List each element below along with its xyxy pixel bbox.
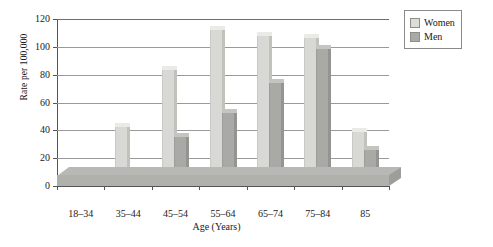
men-swatch-icon — [410, 32, 420, 42]
legend-label-men: Men — [424, 30, 442, 43]
bar-women-6574 — [257, 32, 268, 186]
bar-top-face — [115, 123, 130, 127]
y-tick-mark — [53, 103, 57, 104]
legend-item-men: Men — [410, 30, 455, 43]
legend-item-women: Women — [410, 16, 455, 29]
y-tick-mark — [53, 19, 57, 20]
y-tick-label: 20 — [24, 153, 50, 163]
x-tick-label: 18–34 — [56, 208, 106, 219]
bar-top-face — [304, 34, 319, 38]
x-tick-label: 75–84 — [293, 208, 343, 219]
y-tick-label: 120 — [24, 14, 50, 24]
x-axis-title: Age (Years) — [0, 221, 463, 232]
bar-front-face — [304, 34, 316, 186]
bar-front-face — [257, 32, 269, 186]
legend-label-women: Women — [424, 16, 455, 29]
chart-floor-3d — [57, 167, 401, 187]
bar-men-7584 — [316, 45, 327, 186]
x-tick-label: 85 — [340, 208, 390, 219]
women-swatch-icon — [410, 18, 420, 28]
y-tick-label: 100 — [24, 42, 50, 52]
bar-top-face — [364, 146, 379, 150]
bar-top-face — [174, 133, 189, 137]
x-tick-label: 55–64 — [198, 208, 248, 219]
chart-legend: Women Men — [404, 10, 462, 49]
y-tick-mark — [53, 158, 57, 159]
bar-women-5564 — [210, 26, 221, 186]
bar-front-face — [316, 45, 328, 186]
x-tick-label: 35–44 — [103, 208, 153, 219]
bar-top-face — [162, 66, 177, 70]
bar-chart: Rate per 100,000 020406080100120 18–3435… — [0, 0, 493, 247]
bar-top-face — [257, 32, 272, 36]
bar-front-face — [210, 26, 222, 186]
y-tick-mark — [53, 130, 57, 131]
bar-top-face — [222, 109, 237, 113]
y-tick-mark — [53, 47, 57, 48]
floor-front-face — [57, 175, 389, 186]
bar-top-face — [316, 45, 331, 49]
x-tick-label: 45–54 — [151, 208, 201, 219]
bar-top-face — [352, 128, 367, 132]
y-tick-label: 0 — [24, 181, 50, 191]
bar-top-face — [210, 26, 225, 30]
bar-top-face — [269, 79, 284, 83]
x-tick-label: 65–74 — [245, 208, 295, 219]
y-tick-label: 60 — [24, 98, 50, 108]
gridline — [57, 19, 389, 20]
plot-area — [57, 19, 389, 186]
y-tick-label: 40 — [24, 125, 50, 135]
y-tick-label: 80 — [24, 70, 50, 80]
bar-women-7584 — [304, 34, 315, 186]
y-tick-mark — [53, 75, 57, 76]
